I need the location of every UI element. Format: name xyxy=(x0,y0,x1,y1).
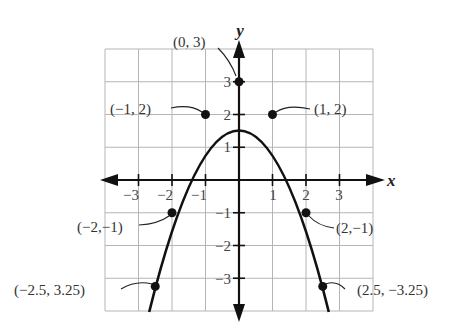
x-axis-left-arrow-icon xyxy=(100,174,118,186)
point-25 xyxy=(318,282,327,291)
x-axis-right-arrow-icon xyxy=(366,174,385,186)
label-m1: (−1, 2) xyxy=(110,101,151,118)
x-tick-labels: −3 −2 −1 1 2 3 xyxy=(123,187,343,203)
label-25: (2.5, −3.25) xyxy=(357,282,428,299)
y-tick-label: 3 xyxy=(224,74,232,90)
label-m2: (−2,−1) xyxy=(77,219,123,236)
x-axis-label: x xyxy=(386,171,396,190)
point-1 xyxy=(268,110,277,119)
x-tick-label: −2 xyxy=(157,187,173,203)
label-2: (2,−1) xyxy=(336,220,373,237)
x-axis xyxy=(100,174,385,186)
point-m25 xyxy=(151,282,160,291)
y-tick-label: −3 xyxy=(215,271,231,287)
point-labels: (0, 3) (−1, 2) (1, 2) (−2,−1) (2,−1) (−2… xyxy=(14,34,428,299)
y-tick-label: −1 xyxy=(215,205,231,221)
y-tick-label: −2 xyxy=(215,238,231,254)
point-m1 xyxy=(201,110,210,119)
y-tick-label: 1 xyxy=(224,139,232,155)
label-vertex: (0, 3) xyxy=(173,34,206,51)
x-tick-label: 1 xyxy=(269,187,277,203)
label-1: (1, 2) xyxy=(314,101,347,118)
y-axis-label: y xyxy=(234,21,244,40)
y-axis-down-arrow-icon xyxy=(233,304,245,322)
point-vertex xyxy=(235,77,244,86)
y-tick-label: 2 xyxy=(224,107,232,123)
x-tick-label: −1 xyxy=(191,187,207,203)
x-tick-label: 3 xyxy=(335,187,343,203)
parabola-chart: −3 −2 −1 1 2 3 3 2 1 −1 −2 −3 y x xyxy=(0,0,462,332)
x-tick-label: −3 xyxy=(123,187,139,203)
label-m25: (−2.5, 3.25) xyxy=(14,282,85,299)
x-tick-label: 2 xyxy=(302,187,310,203)
